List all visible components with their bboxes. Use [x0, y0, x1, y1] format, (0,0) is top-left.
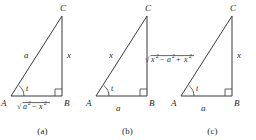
angle-label-b: t: [111, 84, 114, 93]
radicand-first-exponent-a: 2: [28, 100, 31, 106]
right-angle-marker-c: [225, 89, 232, 96]
radical-sign-a: √: [17, 102, 22, 111]
radicand-first-exponent-b: 2: [156, 53, 159, 59]
base-label-c: a: [201, 103, 206, 113]
angle-arc-b: [104, 86, 109, 96]
vertex-label-b-C: C: [145, 3, 152, 13]
triangle-panel-c: A B C t a x √ a 2 + x 2 (c): [170, 0, 255, 140]
hypotenuse-line-b: [96, 16, 147, 96]
vertex-label-a-B: B: [64, 98, 70, 108]
right-angle-marker-b: [140, 89, 147, 96]
panel-caption-c: (c): [170, 126, 255, 136]
radicand-operator-a: −: [32, 102, 37, 111]
radicand-first-exponent-c: 2: [172, 53, 175, 59]
vertex-label-a-C: C: [60, 3, 67, 13]
vertical-label-b: √ x 2 − a 2: [145, 53, 170, 64]
vertical-label-c: x: [236, 50, 241, 60]
vertex-label-b-A: A: [85, 98, 92, 108]
radicand-first-a: a: [23, 102, 27, 111]
triangle-panel-a: A B C t a x √ a 2 − x 2 (a): [0, 0, 85, 140]
panel-caption-b: (b): [85, 126, 170, 136]
radicand-operator-b: −: [160, 55, 165, 64]
radicand-operator-c: +: [176, 55, 181, 64]
triangle-figure-group: A B C t a x √ a 2 − x 2 (a): [0, 0, 256, 140]
vertex-label-c-C: C: [230, 3, 237, 13]
angle-label-a: t: [26, 84, 29, 93]
angle-arc-a: [19, 86, 24, 96]
radicand-first-c: a: [170, 55, 171, 64]
radical-sign-b: √: [145, 55, 150, 64]
radicand-first-b: x: [150, 55, 155, 64]
radicand-second-exponent-c: 2: [189, 53, 192, 59]
base-label-b: a: [116, 103, 121, 113]
vertex-label-a-A: A: [0, 98, 7, 108]
hypotenuse-label-a: a: [24, 50, 29, 60]
triangle-panel-b: A B C t x a √ x 2 − a 2 (b): [85, 0, 170, 140]
vertex-label-b-B: B: [149, 98, 155, 108]
triangle-diagram-c: A B C t a x √ a 2 + x 2: [170, 0, 256, 126]
hypotenuse-label-b: x: [108, 50, 113, 60]
hypotenuse-label-c: √ a 2 + x 2: [170, 53, 194, 64]
radicand-second-exponent-a: 2: [44, 100, 47, 106]
vertex-label-c-B: B: [234, 98, 240, 108]
right-angle-marker-a: [55, 89, 62, 96]
base-label-a: √ a 2 − x 2: [17, 100, 50, 111]
triangle-diagram-a: A B C t a x √ a 2 − x 2: [0, 0, 85, 126]
vertex-label-c-A: A: [170, 98, 177, 108]
radicand-second-c: x: [183, 55, 188, 64]
vertical-label-a: x: [66, 50, 71, 60]
angle-label-c: t: [196, 84, 199, 93]
panel-caption-a: (a): [0, 126, 85, 136]
triangle-diagram-b: A B C t x a √ x 2 − a 2: [85, 0, 170, 126]
angle-arc-c: [189, 86, 194, 96]
hypotenuse-line-a: [11, 16, 62, 96]
radicand-second-a: x: [38, 102, 43, 111]
